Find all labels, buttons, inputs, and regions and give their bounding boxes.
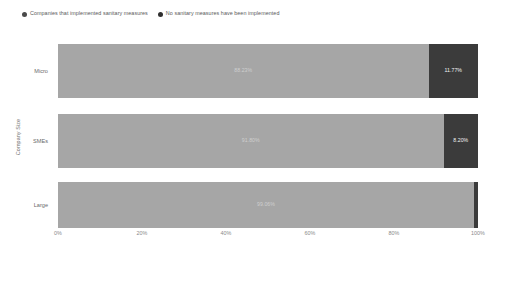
bar-value-label: 8.20%: [453, 138, 468, 143]
table-row: 88.23% 11.77%: [58, 44, 478, 98]
x-tick-40: 40%: [221, 231, 232, 236]
legend-swatch-none: [158, 12, 163, 17]
table-row: 91.80% 8.20%: [58, 114, 478, 168]
stacked-bar-chart: Companies that implemented sanitary meas…: [0, 0, 509, 285]
bar-value-label: 11.77%: [445, 68, 463, 73]
bar-value-label: 88.23%: [234, 68, 252, 73]
category-label-large: Large: [34, 203, 48, 209]
bar-segment-implemented-smes[interactable]: 91.80%: [58, 114, 444, 168]
bar-value-label: 99.06%: [257, 202, 275, 207]
category-label-smes: SMEs: [33, 139, 48, 145]
chart-legend: Companies that implemented sanitary meas…: [22, 8, 279, 20]
bar-value-label: 91.80%: [242, 138, 260, 143]
legend-label-none: No sanitary measures have been implement…: [166, 11, 280, 16]
bar-segment-implemented-micro[interactable]: 88.23%: [58, 44, 429, 98]
x-tick-0: 0%: [54, 231, 62, 236]
y-axis-title: Company Size: [15, 107, 21, 167]
x-tick-20: 20%: [137, 231, 148, 236]
category-label-micro: Micro: [34, 69, 48, 75]
legend-item-implemented[interactable]: Companies that implemented sanitary meas…: [22, 11, 148, 16]
category-axis: Company Size Micro SMEs Large: [0, 38, 58, 228]
x-tick-60: 60%: [305, 231, 316, 236]
table-row: 99.06% 0.94%: [58, 182, 478, 228]
x-tick-80: 80%: [389, 231, 400, 236]
bar-segment-none-large[interactable]: 0.94%: [474, 182, 478, 228]
plot-area: 88.23% 11.77% 91.80% 8.20% 99.06% 0.94%: [58, 38, 478, 228]
x-axis: 0% 20% 40% 60% 80% 100%: [58, 231, 478, 243]
legend-item-none[interactable]: No sanitary measures have been implement…: [158, 11, 280, 16]
legend-swatch-implemented: [22, 12, 27, 17]
bar-segment-none-micro[interactable]: 11.77%: [429, 44, 478, 98]
bar-segment-implemented-large[interactable]: 99.06%: [58, 182, 474, 228]
x-tick-100: 100%: [471, 231, 485, 236]
bar-segment-none-smes[interactable]: 8.20%: [444, 114, 478, 168]
legend-label-implemented: Companies that implemented sanitary meas…: [30, 11, 148, 16]
